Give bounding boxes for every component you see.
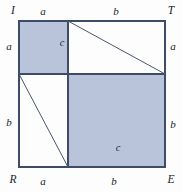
- edge-label-right-b: b: [170, 119, 176, 130]
- upper-right-diagonal: [68, 21, 165, 74]
- vertex-label-T: T: [168, 5, 174, 17]
- vertex-label-I: I: [11, 5, 15, 17]
- hypotenuse-label-upper-c: c: [60, 38, 65, 49]
- edge-label-bottom-a: a: [40, 176, 46, 187]
- vertex-label-E: E: [167, 174, 174, 186]
- geometry-figure: I T R E a b a b a b a b c c: [0, 0, 182, 192]
- vertex-label-R: R: [9, 174, 16, 186]
- hypotenuse-label-lower-c: c: [116, 143, 121, 154]
- lower-left-diagonal: [19, 74, 68, 167]
- edge-label-left-b: b: [6, 117, 12, 128]
- edge-label-left-a: a: [6, 41, 12, 52]
- edge-label-top-a: a: [40, 6, 46, 17]
- edge-label-right-a: a: [170, 41, 176, 52]
- edge-label-bottom-b: b: [111, 176, 117, 187]
- figure-canvas: [0, 0, 182, 192]
- edge-label-top-b: b: [113, 6, 119, 17]
